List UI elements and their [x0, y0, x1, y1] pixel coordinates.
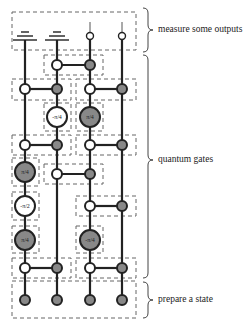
- output-lines: [90, 22, 122, 33]
- brace-gates-icon: [143, 55, 153, 278]
- gate-param: π/4: [21, 169, 29, 175]
- circuit-diagram: -π/4 π/4 π/4 -π/2 π/4 -π/4: [0, 0, 248, 330]
- gate-param: π/4: [86, 114, 94, 120]
- measure-box: [12, 12, 136, 50]
- couplings: [25, 65, 122, 268]
- gate-param: -π/4: [52, 114, 62, 120]
- measure-icon: [13, 32, 69, 40]
- prepare-nodes: [20, 295, 127, 305]
- label-prepare: prepare a state: [158, 294, 213, 304]
- wires: [25, 38, 122, 300]
- two-qubit-nodes: [20, 60, 127, 273]
- gate-param: -π/4: [85, 237, 95, 243]
- gate-param: π/4: [21, 237, 29, 243]
- output-node-icon: [87, 33, 126, 40]
- gate-param: -π/2: [20, 203, 30, 209]
- label-gates: quantum gates: [158, 154, 213, 164]
- brace-icons: [143, 8, 153, 318]
- brace-measure-icon: [143, 8, 153, 52]
- label-measure: measure some outputs: [158, 24, 242, 34]
- brace-prepare-icon: [143, 282, 153, 318]
